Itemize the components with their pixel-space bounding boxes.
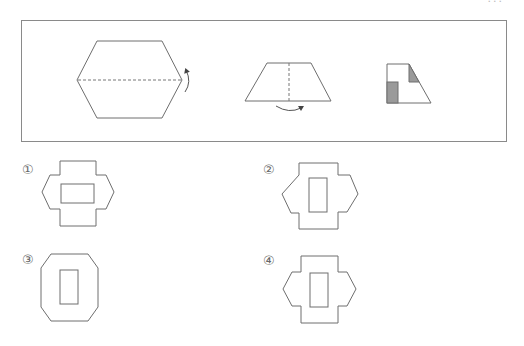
choice-2-hole [309,178,327,212]
choice-4-label[interactable]: ④ [263,254,275,267]
choice-3-hole [60,270,78,304]
shaded-cut-region-top [409,64,419,82]
choice-4-shape[interactable] [283,256,356,323]
choice-3-label[interactable]: ③ [22,253,34,266]
hexagon-paper [77,41,190,118]
choice-1-label[interactable]: ① [22,163,34,176]
choice-1-hole [61,184,94,203]
choice-2-outline [282,163,358,229]
choice-2-shape[interactable] [282,163,358,229]
trapezoid-folded [245,63,331,111]
figure-canvas [0,0,524,346]
choice-4-outline [283,256,356,323]
choice-3-outline [41,254,98,321]
trapezoid-outline [245,63,331,101]
choice-4-hole [310,273,328,307]
choice-1-outline [42,161,114,226]
final-folded-shape [387,64,431,103]
choice-3-shape[interactable] [41,254,98,321]
curved-arrow-up-icon [182,67,189,92]
choice-1-shape[interactable] [42,161,114,226]
shaded-cut-region-bottom [387,82,398,103]
curved-arrow-right-icon [276,106,304,111]
choice-2-label[interactable]: ② [263,163,275,176]
